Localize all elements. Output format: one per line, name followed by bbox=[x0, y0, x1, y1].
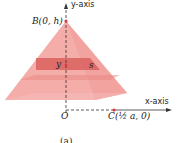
apex-label: B(0, h) bbox=[32, 16, 63, 26]
origin-label: O bbox=[61, 111, 68, 121]
x-axis-arrow bbox=[166, 108, 172, 112]
point-y bbox=[65, 64, 68, 67]
caption: (a) bbox=[60, 136, 72, 143]
y-axis-label: y-axis bbox=[71, 0, 95, 9]
slice-side-label: s bbox=[89, 60, 94, 70]
pyramid-figure bbox=[0, 0, 177, 143]
band bbox=[20, 75, 120, 80]
corner-label: C(½ a, 0) bbox=[108, 111, 150, 121]
y-axis-arrow bbox=[64, 3, 68, 9]
slice-height-label: y bbox=[56, 59, 61, 69]
x-axis-label: x-axis bbox=[145, 97, 169, 106]
pyramid-diagram: y-axis B(0, h) y s x-axis O C(½ a, 0) (a… bbox=[0, 0, 177, 143]
point-b bbox=[64, 19, 67, 22]
